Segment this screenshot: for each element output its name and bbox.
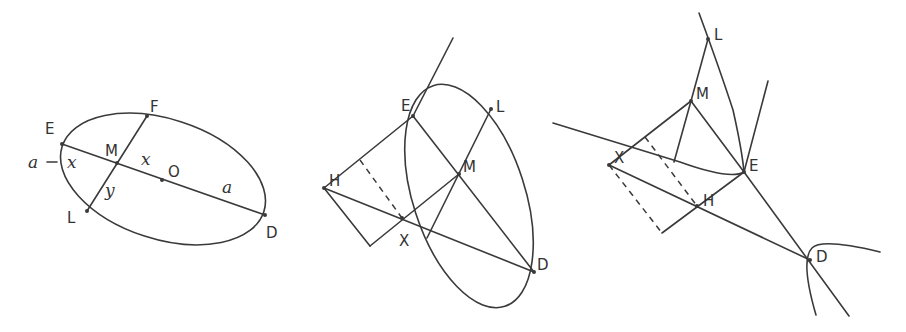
point-D <box>532 270 536 274</box>
point-M <box>689 99 693 103</box>
segment-HD <box>324 188 534 272</box>
point-E <box>411 114 415 118</box>
geometry-diagram: E F M O L D a x x y a E L M H X D <box>0 0 906 332</box>
label-a-right: a <box>222 177 232 197</box>
label-E: E <box>401 97 410 115</box>
segment-corner-M <box>370 174 459 246</box>
point-M <box>457 172 461 176</box>
label-x-right: x <box>141 149 151 169</box>
dashed-line-X-corner <box>609 165 662 233</box>
label-M: M <box>105 142 118 160</box>
label-L: L <box>714 26 723 44</box>
point-F <box>145 114 149 118</box>
point-X <box>607 163 611 167</box>
point-X <box>400 216 404 220</box>
dashed-line <box>360 160 402 218</box>
point-D <box>808 258 812 262</box>
figure-3-hyperbola-construction: L M E H X D <box>553 13 880 316</box>
label-M: M <box>696 85 709 103</box>
label-O: O <box>168 163 180 181</box>
figure-1-ellipse-diameters: E F M O L D a x x y a <box>28 89 282 269</box>
segment-M-down <box>674 101 691 162</box>
label-X: X <box>399 232 409 250</box>
label-H: H <box>703 192 714 210</box>
label-D: D <box>266 224 278 242</box>
label-y: y <box>104 180 115 200</box>
label-H: H <box>329 172 340 190</box>
segment-XD <box>609 165 810 260</box>
point-H <box>695 204 699 208</box>
point-L <box>489 107 493 111</box>
label-x-left: x <box>67 152 77 172</box>
label-L: L <box>67 209 76 227</box>
label-E: E <box>45 120 54 138</box>
point-H <box>322 186 326 190</box>
point-M <box>115 161 119 165</box>
label-M: M <box>463 158 476 176</box>
segment-ME <box>691 101 744 172</box>
point-L <box>85 209 89 213</box>
point-E <box>60 142 64 146</box>
hyperbola-branch-lower <box>553 123 744 174</box>
label-D: D <box>537 256 549 274</box>
label-a-left: a <box>28 152 38 172</box>
point-E <box>742 170 746 174</box>
point-D <box>263 213 267 217</box>
point-L <box>706 37 710 41</box>
label-D: D <box>816 248 828 266</box>
tangent-line <box>413 38 453 116</box>
label-X: X <box>614 149 624 167</box>
label-L: L <box>496 98 505 116</box>
dashed-line-H <box>645 137 697 206</box>
point-O <box>160 178 164 182</box>
label-F: F <box>150 98 159 116</box>
label-E: E <box>749 157 758 175</box>
figure-2-ellipse-construction: E L M H X D <box>322 38 558 324</box>
